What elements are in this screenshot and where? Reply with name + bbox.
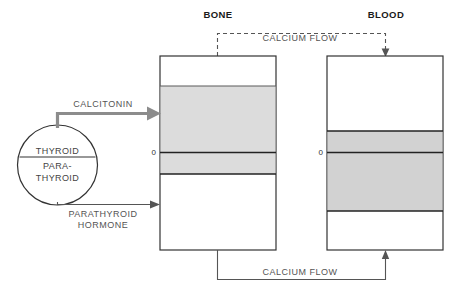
- thyroid-label: THYROID: [36, 146, 79, 156]
- calcitonin-arrowhead-icon: [147, 107, 161, 121]
- parathyroid-hormone-label-line1: PARATHYROID: [68, 209, 137, 219]
- blood-column: [327, 56, 443, 250]
- diagram-canvas: BONE BLOOD CALCIUM FLOW 0: [0, 0, 461, 294]
- top-calcium-flow-label: CALCIUM FLOW: [262, 33, 337, 43]
- parathyroid-hormone-arrowhead-icon: [150, 201, 160, 209]
- calcitonin-arrow: [58, 107, 162, 129]
- blood-column-title: BLOOD: [368, 9, 404, 20]
- parathyroid-label-line2: THYROID: [36, 173, 79, 183]
- blood-calcium-band: [328, 131, 443, 211]
- bottom-calcium-flow-label: CALCIUM FLOW: [262, 267, 337, 277]
- calcitonin-arrow-line: [58, 114, 151, 129]
- calcium-flow-diagram: BONE BLOOD CALCIUM FLOW 0: [0, 0, 461, 294]
- parathyroid-label-line1: PARA-: [43, 161, 72, 171]
- bone-column: [160, 56, 276, 250]
- bone-zero-label: 0: [152, 148, 157, 157]
- bottom-calcium-flow-arrowhead-icon: [382, 250, 389, 259]
- parathyroid-hormone-label-line2: HORMONE: [78, 220, 129, 230]
- bone-column-title: BONE: [203, 9, 232, 20]
- calcitonin-label: CALCITONIN: [73, 99, 132, 109]
- blood-zero-label: 0: [319, 148, 324, 157]
- bone-calcium-band: [161, 86, 276, 174]
